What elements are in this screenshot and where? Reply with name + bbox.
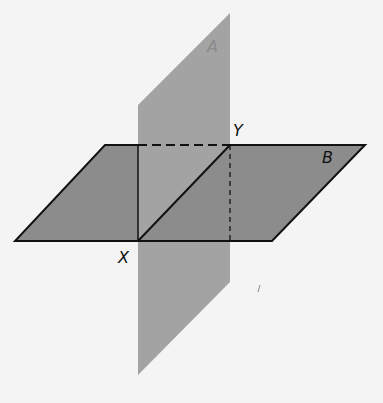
label-point-x: X <box>117 248 130 267</box>
plane-a-lower <box>138 241 230 375</box>
plane-b-right <box>230 145 365 241</box>
diagram-canvas: A B X Y <box>0 0 383 403</box>
stray-mark <box>258 285 260 292</box>
label-plane-b: B <box>322 148 333 167</box>
label-point-y: Y <box>233 121 244 140</box>
plane-a-upper <box>138 13 230 145</box>
plane-b-left <box>15 145 138 241</box>
label-plane-a: A <box>206 37 218 56</box>
intersecting-planes-figure: A B X Y <box>0 0 383 403</box>
